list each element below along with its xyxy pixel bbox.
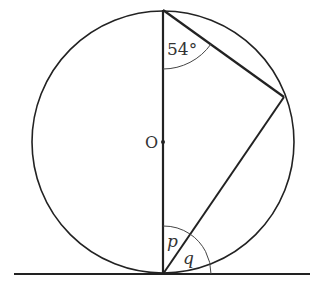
- circle-theorem-diagram: 54° O p q: [0, 0, 326, 296]
- center-label: O: [145, 133, 158, 152]
- angle-label-54: 54°: [167, 39, 197, 59]
- angle-label-p: p: [167, 231, 178, 251]
- chord-right-bottom: [163, 97, 284, 274]
- angle-label-q: q: [183, 248, 194, 268]
- center-point: [161, 140, 165, 144]
